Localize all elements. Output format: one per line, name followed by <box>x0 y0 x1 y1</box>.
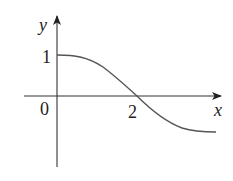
origin-label: 0 <box>40 99 49 119</box>
y-tick-label-1: 1 <box>42 47 51 67</box>
x-axis-label: x <box>213 100 222 120</box>
y-axis-label: y <box>37 15 47 35</box>
graph: y 1 0 2 x <box>0 0 233 181</box>
x-tick-label-2: 2 <box>128 102 137 122</box>
